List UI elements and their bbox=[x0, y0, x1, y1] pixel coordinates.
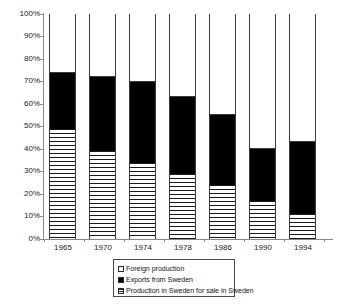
segment-exports-1990 bbox=[250, 149, 275, 201]
x-tick-mark-6 bbox=[284, 239, 285, 242]
bar-1994 bbox=[289, 14, 316, 239]
bar-1978 bbox=[169, 14, 196, 239]
segment-domestic-1970 bbox=[90, 151, 115, 239]
bar-1965 bbox=[49, 14, 76, 239]
bar-1970 bbox=[89, 14, 116, 239]
x-tick-mark-4 bbox=[204, 239, 205, 242]
x-tick-label-1965: 1965 bbox=[43, 243, 83, 253]
plot-area bbox=[44, 14, 330, 239]
y-tick-label-70: 70% bbox=[4, 77, 40, 85]
segment-domestic-1974 bbox=[130, 163, 155, 240]
x-tick-mark-5 bbox=[244, 239, 245, 242]
y-tick-label-100: 100% bbox=[4, 10, 40, 18]
x-tick-mark-2 bbox=[124, 239, 125, 242]
legend-label-production-in-sweden: Production in Sweden for sale in Sweden bbox=[126, 287, 254, 295]
x-tick-label-1994: 1994 bbox=[283, 243, 323, 253]
x-axis-labels: 1965 1970 1974 1978 1986 1990 1994 bbox=[44, 243, 330, 257]
segment-exports-1965 bbox=[50, 73, 75, 129]
segment-foreign-1978 bbox=[170, 14, 195, 97]
y-tick-label-90: 90% bbox=[4, 32, 40, 40]
segment-foreign-1974 bbox=[130, 14, 155, 82]
x-tick-mark-0 bbox=[44, 239, 45, 242]
x-tick-mark-1 bbox=[84, 239, 85, 242]
segment-domestic-1965 bbox=[50, 129, 75, 239]
segment-domestic-1978 bbox=[170, 174, 195, 239]
legend-label-exports-from-sweden: Exports from Sweden bbox=[126, 276, 193, 284]
bar-1974 bbox=[129, 14, 156, 239]
x-tick-label-1974: 1974 bbox=[123, 243, 163, 253]
x-tick-label-1978: 1978 bbox=[163, 243, 203, 253]
stacked-bar-chart: 100% 90% 80% 70% 60% 50% 40% 30% 20% 10%… bbox=[0, 0, 338, 304]
segment-domestic-1990 bbox=[250, 201, 275, 239]
segment-foreign-1970 bbox=[90, 14, 115, 77]
segment-exports-1974 bbox=[130, 82, 155, 163]
y-tick-label-20: 20% bbox=[4, 190, 40, 198]
black-square-icon bbox=[118, 277, 124, 283]
legend-item-production-in-sweden: Production in Sweden for sale in Sweden bbox=[118, 285, 231, 296]
hatched-square-icon bbox=[118, 288, 124, 294]
y-tick-label-10: 10% bbox=[4, 212, 40, 220]
y-axis-labels: 100% 90% 80% 70% 60% 50% 40% 30% 20% 10%… bbox=[0, 0, 40, 304]
y-tick-label-60: 60% bbox=[4, 100, 40, 108]
bar-1986 bbox=[209, 14, 236, 239]
x-axis-line bbox=[43, 239, 333, 240]
segment-exports-1978 bbox=[170, 97, 195, 174]
x-tick-label-1970: 1970 bbox=[83, 243, 123, 253]
segment-exports-1986 bbox=[210, 115, 235, 185]
x-tick-mark-3 bbox=[164, 239, 165, 242]
x-tick-mark-7 bbox=[324, 239, 325, 242]
segment-foreign-1990 bbox=[250, 14, 275, 149]
segment-domestic-1994 bbox=[290, 214, 315, 239]
chart-legend: Foreign production Exports from Sweden P… bbox=[113, 259, 235, 297]
x-tick-label-1986: 1986 bbox=[203, 243, 243, 253]
segment-foreign-1986 bbox=[210, 14, 235, 115]
legend-item-foreign-production: Foreign production bbox=[118, 263, 231, 274]
y-tick-label-0: 0% bbox=[4, 235, 40, 243]
segment-exports-1994 bbox=[290, 142, 315, 214]
white-square-icon bbox=[118, 266, 124, 272]
segment-foreign-1994 bbox=[290, 14, 315, 142]
segment-exports-1970 bbox=[90, 77, 115, 151]
legend-label-foreign-production: Foreign production bbox=[126, 265, 184, 273]
segment-foreign-1965 bbox=[50, 14, 75, 73]
y-tick-label-40: 40% bbox=[4, 145, 40, 153]
segment-domestic-1986 bbox=[210, 185, 235, 239]
y-tick-label-80: 80% bbox=[4, 55, 40, 63]
x-tick-label-1990: 1990 bbox=[243, 243, 283, 253]
y-tick-label-30: 30% bbox=[4, 167, 40, 175]
y-tick-label-50: 50% bbox=[4, 122, 40, 130]
bar-1990 bbox=[249, 14, 276, 239]
legend-item-exports-from-sweden: Exports from Sweden bbox=[118, 274, 231, 285]
